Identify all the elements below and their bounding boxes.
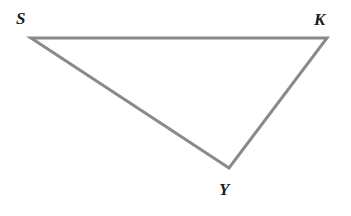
vertex-label-k: K	[314, 11, 325, 28]
triangle-svg-canvas	[0, 0, 351, 216]
triangle-shape	[31, 38, 327, 168]
geometry-figure: S K Y	[0, 0, 351, 216]
vertex-label-s: S	[16, 10, 25, 27]
vertex-label-y: Y	[219, 181, 229, 198]
